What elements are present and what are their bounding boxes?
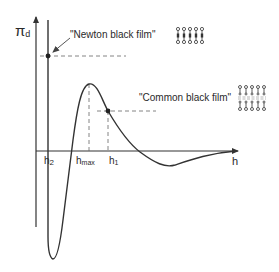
tick-label-h1: h1 bbox=[109, 155, 119, 166]
x-axis-label: h bbox=[232, 155, 238, 167]
separated-bilayer-molecules-icon bbox=[238, 86, 266, 111]
newton-film-point bbox=[46, 54, 51, 59]
common-film-point bbox=[106, 109, 111, 114]
newton-pointer-arrow bbox=[53, 38, 70, 52]
newton-film-label: "Newton black film" bbox=[70, 29, 156, 40]
disjoining-pressure-diagram: πd h h2 hmax h1 "Newton black film" "Com… bbox=[0, 0, 279, 272]
tick-label-hmax: hmax bbox=[76, 155, 95, 166]
tick-label-h2: h2 bbox=[44, 155, 55, 167]
common-film-label: "Common black film" bbox=[139, 92, 232, 103]
bilayer-molecules-icon bbox=[176, 27, 203, 43]
y-axis-label: πd bbox=[15, 22, 30, 39]
